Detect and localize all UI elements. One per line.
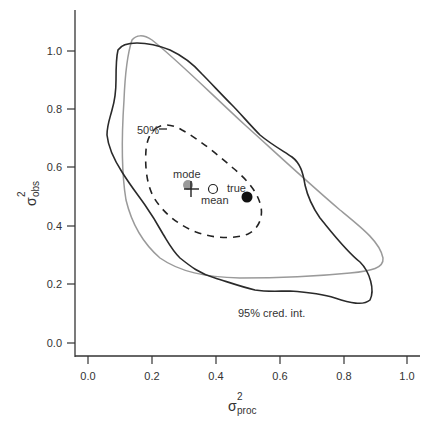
y-tick-label: 0.8 [47, 103, 62, 115]
x-axis-ticks: 0.0 0.2 0.4 0.6 0.8 1.0 [80, 356, 414, 382]
svg-text:2: 2 [16, 191, 27, 197]
chart-container: 1.0 0.8 0.6 0.4 0.2 0.0 0.0 0.2 0.4 0.6 … [0, 0, 431, 425]
y-tick-label: 1.0 [47, 45, 62, 57]
svg-text:2: 2 [237, 391, 243, 402]
x-tick-label: 0.2 [144, 370, 159, 382]
svg-text:proc: proc [237, 405, 256, 416]
x-tick-label: 1.0 [399, 370, 414, 382]
svg-text:σ: σ [228, 398, 237, 414]
label-true: true [227, 182, 246, 194]
x-tick-label: 0.6 [272, 370, 287, 382]
x-tick-label: 0.4 [208, 370, 223, 382]
x-axis-title: σ 2 proc [228, 391, 256, 416]
x-tick-label: 0.8 [336, 370, 351, 382]
y-tick-label: 0.0 [47, 337, 62, 349]
contour-95-gray [122, 36, 383, 278]
svg-text:σ: σ [23, 197, 39, 206]
x-tick-label: 0.0 [80, 370, 95, 382]
scatter-contour-plot: 1.0 0.8 0.6 0.4 0.2 0.0 0.0 0.2 0.4 0.6 … [0, 0, 431, 425]
label-50-percent: 50% [137, 124, 159, 136]
y-tick-label: 0.4 [47, 220, 62, 232]
label-95-cred-int: 95% cred. int. [238, 307, 305, 319]
label-mean: mean [201, 194, 229, 206]
label-mode: mode [173, 168, 201, 180]
y-axis-title: σ 2 obs [16, 181, 41, 206]
y-axis-ticks: 1.0 0.8 0.6 0.4 0.2 0.0 [47, 45, 75, 349]
svg-text:obs: obs [30, 181, 41, 197]
mean-marker [209, 185, 218, 194]
contour-95-black [107, 43, 372, 303]
y-tick-label: 0.6 [47, 161, 62, 173]
y-tick-label: 0.2 [47, 278, 62, 290]
